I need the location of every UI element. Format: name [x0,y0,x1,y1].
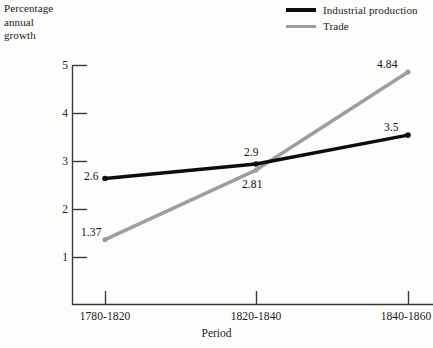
y-tick-label-2: 2 [48,203,68,215]
data-label-trade-0: 1.37 [81,226,102,238]
series-point-trade-2 [405,70,410,75]
y-tick-label-4: 4 [48,107,68,119]
series-point-industrial-production-2 [405,132,411,138]
x-tick-label-1820-1840: 1820-1840 [216,310,296,323]
plot-area [0,0,433,348]
chart-figure: Percentage annual growth Industrial prod… [0,0,433,348]
y-tick-label-5: 5 [48,59,68,71]
plot-svg [0,0,433,348]
x-tick-label-1840-1860: 1840-1860 [366,310,433,323]
y-tick-label-3: 3 [48,155,68,167]
data-label-industrial-production-2: 3.5 [384,121,399,133]
series-point-trade-1 [253,168,258,173]
series-point-trade-0 [102,237,107,242]
data-label-trade-1: 2.81 [242,178,263,190]
x-axis-title: Period [0,327,433,340]
data-label-industrial-production-0: 2.6 [84,170,99,182]
x-tick-label-1780-1820: 1780-1820 [65,310,145,323]
series-point-industrial-production-0 [102,176,108,182]
series-point-industrial-production-1 [253,161,259,167]
y-tick-label-1: 1 [48,251,68,263]
data-label-trade-2: 4.84 [377,58,398,70]
data-label-industrial-production-1: 2.9 [244,146,259,158]
